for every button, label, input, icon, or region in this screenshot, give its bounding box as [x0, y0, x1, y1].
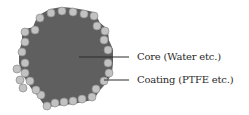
coating-particle [101, 27, 109, 35]
coating-particle [80, 10, 88, 18]
coating-particle [104, 59, 112, 67]
coating-particle [58, 7, 66, 15]
coating-particle [31, 26, 39, 34]
coating-particle [26, 77, 34, 85]
coating-particle [21, 59, 29, 67]
coating-particle [100, 36, 108, 44]
core-label: Core (Water etc.) [137, 51, 221, 63]
coating-particle [21, 38, 29, 46]
coating-particle [19, 84, 27, 92]
coating-particle [21, 28, 29, 36]
coating-particle [69, 8, 77, 16]
coating-particle [100, 77, 108, 85]
coating-particle [18, 48, 26, 56]
coating-particle [90, 12, 98, 20]
coating-particle [47, 9, 55, 17]
coating-particle [69, 97, 77, 105]
coating-particle [13, 65, 21, 73]
coating-particle [36, 14, 44, 22]
coating-particle [21, 69, 29, 77]
coating-particle [51, 99, 59, 107]
coating-particle [78, 95, 86, 103]
coating-particle [16, 76, 24, 84]
coating-label: Coating (PTFE etc.) [137, 74, 233, 86]
coating-particle [43, 102, 51, 110]
coating-particle [88, 93, 96, 101]
coating-particle [92, 85, 100, 93]
coating-particle [104, 46, 112, 54]
coating-particle [32, 86, 40, 94]
coating-particle [105, 69, 113, 77]
coating-particle [93, 22, 101, 30]
coating-particle [60, 98, 68, 106]
